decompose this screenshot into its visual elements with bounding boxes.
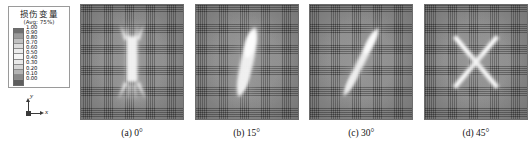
caption-row: (a) 0° (b) 15° (c) 30° (d) 45° <box>80 126 528 146</box>
caption-panel-a: (a) 0° <box>80 126 184 146</box>
legend-swatch <box>14 80 23 85</box>
damage-band-c <box>310 5 412 119</box>
panel-b-15deg <box>195 4 299 120</box>
legend-tick-labels: 1.00 0.90 0.80 0.70 0.60 0.50 0.40 0.30 … <box>26 25 37 86</box>
axis-label-x: x <box>45 108 48 116</box>
damage-band-a <box>81 5 183 119</box>
panel-c-30deg <box>309 4 413 120</box>
panel-row <box>80 4 528 122</box>
axis-origin-marker-icon <box>26 111 31 116</box>
caption-panel-c: (c) 30° <box>309 126 413 146</box>
caption-panel-d: (d) 45° <box>424 126 528 146</box>
damage-band-d <box>425 5 527 119</box>
caption-panel-b: (b) 15° <box>195 126 299 146</box>
legend-tick-label: 0.00 <box>26 76 37 81</box>
legend-box: 损伤变量 (Avg: 75%) 1.00 <box>8 6 70 88</box>
damage-contour-figure: 损伤变量 (Avg: 75%) 1.00 <box>0 0 530 151</box>
legend-column: 损伤变量 (Avg: 75%) 1.00 <box>0 0 78 124</box>
legend-swatch-column <box>13 28 24 86</box>
legend-subtitle: (Avg: 75%) <box>9 19 69 26</box>
panel-a-0deg <box>80 4 184 120</box>
axis-x-arrow-icon <box>40 111 44 115</box>
panel-d-45deg <box>424 4 528 120</box>
damage-band-b <box>196 5 298 119</box>
legend-color-scale: 1.00 0.90 0.80 0.70 0.60 0.50 0.40 0.30 … <box>13 28 37 86</box>
axis-label-y: y <box>30 92 33 100</box>
legend-title: 损伤变量 <box>9 9 69 19</box>
axis-triad-icon: y x <box>20 94 64 124</box>
